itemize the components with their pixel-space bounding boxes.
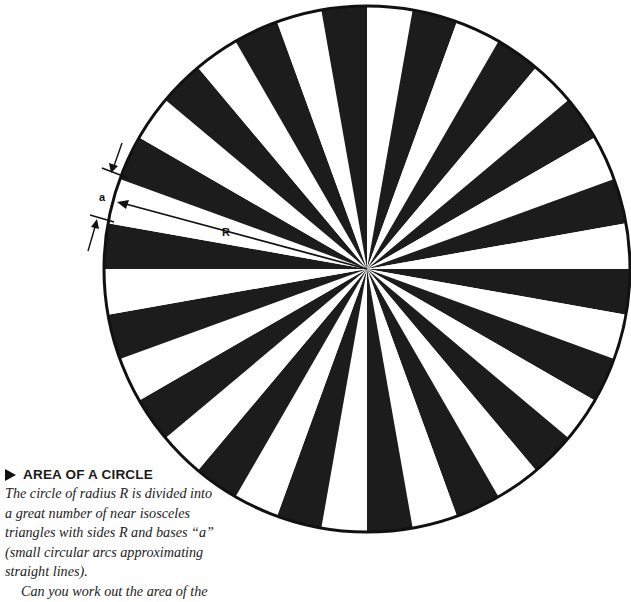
- caption-line: The circle of radius R is divided into: [5, 484, 225, 504]
- caption-line: Can you work out the area of the: [5, 582, 225, 602]
- caption-block: AREA OF A CIRCLE The circle of radius R …: [5, 466, 225, 602]
- caption-line: triangles with sides R and bases “a”: [5, 523, 225, 543]
- radius-label: R: [222, 226, 230, 238]
- caption-line: straight lines).: [5, 562, 225, 582]
- arc-label: a: [99, 191, 106, 203]
- caption-line: (small circular arcs approximating: [5, 543, 225, 563]
- caption-line: a great number of near isosceles: [5, 504, 225, 524]
- caption-heading: AREA OF A CIRCLE: [5, 466, 225, 484]
- play-triangle-icon: [5, 469, 16, 481]
- caption-heading-text: AREA OF A CIRCLE: [23, 466, 153, 484]
- caption-body: The circle of radius R is divided into a…: [5, 484, 225, 602]
